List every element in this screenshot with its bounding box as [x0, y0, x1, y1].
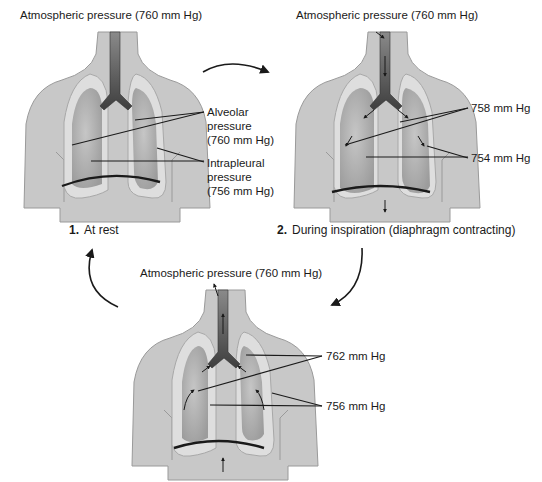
panel-3-intrapleural-callout: 756 mm Hg	[326, 399, 385, 413]
panel-1-intrapleural-callout: Intrapleural pressure (756 mm Hg)	[207, 156, 274, 198]
panel-inspiration	[294, 32, 480, 222]
panel-1-caption: 1.At rest	[69, 223, 119, 237]
panel-1-alveolar-callout: Alveolar pressure (760 mm Hg)	[207, 105, 274, 147]
panel-3-atmospheric-label: Atmospheric pressure (760 mm Hg)	[140, 266, 322, 280]
panel-at-rest	[24, 32, 210, 222]
cycle-arrow-3-to-1	[89, 250, 118, 307]
panel-2-atmospheric-label: Atmospheric pressure (760 mm Hg)	[296, 8, 478, 22]
panel-3-alveolar-callout: 762 mm Hg	[326, 349, 385, 363]
panel-1-atmospheric-label: Atmospheric pressure (760 mm Hg)	[20, 8, 202, 22]
panel-2-alveolar-callout: 758 mm Hg	[471, 101, 530, 115]
panel-2-intrapleural-callout: 754 mm Hg	[471, 151, 530, 165]
cycle-arrow-2-to-3	[332, 248, 362, 305]
panel-expiration	[132, 284, 318, 480]
cycle-arrow-1-to-2	[203, 64, 268, 72]
panel-2-caption: 2.During inspiration (diaphragm contract…	[277, 223, 515, 237]
breathing-cycle-diagram	[0, 0, 542, 482]
